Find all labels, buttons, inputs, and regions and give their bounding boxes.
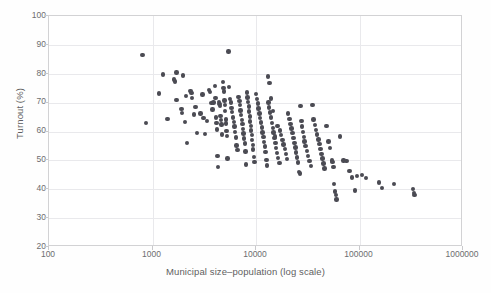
data-point	[250, 138, 254, 142]
data-point	[245, 95, 249, 99]
data-point	[269, 96, 273, 100]
data-point	[231, 115, 235, 119]
data-point	[241, 131, 245, 135]
data-point	[227, 85, 231, 89]
data-point	[247, 104, 251, 108]
data-point	[216, 165, 220, 169]
data-point	[225, 134, 229, 138]
data-point	[286, 111, 290, 115]
data-point	[319, 152, 323, 156]
data-point	[313, 123, 317, 127]
data-point	[257, 111, 261, 115]
gridline-vertical	[153, 16, 154, 245]
data-point	[208, 90, 212, 94]
data-point	[274, 146, 278, 150]
data-point	[269, 115, 273, 119]
data-point	[298, 104, 302, 108]
data-point	[244, 162, 248, 166]
data-point	[224, 129, 228, 133]
data-point	[140, 53, 144, 57]
data-point	[243, 141, 247, 145]
data-point	[318, 147, 322, 151]
data-point	[324, 124, 328, 128]
data-point	[222, 98, 226, 102]
data-point	[183, 120, 187, 124]
data-point	[278, 128, 282, 132]
data-point	[306, 154, 310, 158]
data-point	[392, 182, 396, 186]
data-point	[320, 156, 324, 160]
x-tick-mark	[48, 246, 49, 250]
data-point	[245, 90, 249, 94]
x-tick-mark	[255, 246, 256, 250]
x-tick-mark	[152, 246, 153, 250]
data-point	[291, 136, 295, 140]
data-point	[332, 182, 336, 186]
gridline-vertical	[256, 16, 257, 245]
data-point	[200, 92, 204, 96]
data-point	[144, 121, 148, 125]
y-tick-label: 30	[0, 213, 46, 222]
data-point	[247, 109, 251, 113]
data-point	[223, 103, 227, 107]
data-point	[224, 121, 228, 125]
data-point	[251, 147, 255, 151]
data-point	[265, 163, 269, 167]
x-axis-title: Municipal size–population (log scale)	[0, 266, 491, 277]
data-point	[232, 124, 236, 128]
y-tick-label: 100	[0, 11, 46, 20]
data-point	[203, 132, 207, 136]
data-point	[331, 165, 335, 169]
data-point	[315, 132, 319, 136]
data-point	[273, 141, 277, 145]
data-point	[307, 159, 311, 163]
y-tick-label: 90	[0, 40, 46, 49]
x-tick-mark	[359, 246, 360, 250]
data-point	[222, 89, 226, 93]
data-point	[229, 100, 233, 104]
data-point	[283, 147, 287, 151]
data-point	[296, 160, 300, 164]
gridline-horizontal	[49, 45, 461, 46]
data-point	[294, 150, 298, 154]
data-point	[215, 154, 219, 158]
data-point	[264, 158, 268, 162]
x-tick-mark	[462, 246, 463, 250]
data-point	[205, 119, 209, 123]
data-point	[273, 134, 277, 138]
data-point	[300, 124, 304, 128]
data-point	[330, 160, 334, 164]
data-point	[287, 117, 291, 121]
data-point	[270, 121, 274, 125]
data-point	[184, 94, 188, 98]
data-point	[276, 156, 280, 160]
scatter-chart-figure: 2030405060708090100 10010001000010000010…	[0, 0, 491, 293]
data-point	[181, 73, 185, 77]
data-point	[161, 72, 165, 76]
data-point	[220, 132, 224, 136]
data-point	[290, 131, 294, 135]
data-point	[215, 127, 219, 131]
gridline-vertical	[360, 16, 361, 245]
data-point	[299, 119, 303, 123]
data-point	[165, 117, 169, 121]
data-point	[185, 141, 189, 145]
x-tick-label: 100	[3, 250, 93, 259]
data-point	[284, 152, 288, 156]
x-tick-label: 10000	[210, 250, 300, 259]
data-point	[322, 166, 326, 170]
data-point	[256, 106, 260, 110]
plot-area	[48, 15, 462, 246]
gridline-horizontal	[49, 218, 461, 219]
data-point	[223, 109, 227, 113]
data-point	[293, 145, 297, 149]
gridline-horizontal	[49, 74, 461, 75]
x-tick-label: 1000000	[417, 250, 491, 259]
data-point	[298, 171, 302, 175]
data-point	[193, 105, 197, 109]
gridline-horizontal	[49, 189, 461, 190]
data-point	[328, 146, 332, 150]
data-point	[302, 135, 306, 139]
data-point	[172, 77, 176, 81]
gridline-horizontal	[49, 132, 461, 133]
